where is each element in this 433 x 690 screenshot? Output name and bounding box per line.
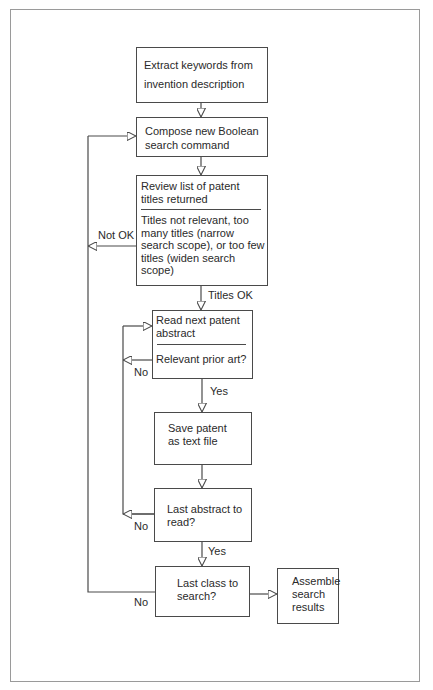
edge-label-yes-last-abstract: Yes [208, 545, 226, 558]
edge-label-yes-relevant: Yes [210, 385, 228, 398]
node-divider [157, 344, 246, 345]
node-text-top: Review list of patent titles returned [141, 180, 261, 205]
node-text: Last abstract to read? [167, 503, 243, 528]
node-text: Extract keywords from invention descript… [144, 56, 262, 94]
edge-label-no-last-abstract: No [134, 520, 148, 533]
node-compose-search: Compose new Boolean search command [136, 117, 268, 157]
node-last-class: Last class to search? [155, 566, 250, 617]
node-divider [141, 209, 261, 210]
node-text-bottom: Titles not relevant, too many titles (na… [141, 214, 265, 277]
inner-loop-line [123, 326, 154, 514]
edge-label-no-relevant: No [134, 366, 148, 379]
edge-label-no-last-class: No [134, 596, 148, 609]
node-save-patent: Save patent as text file [154, 412, 252, 465]
node-review-titles: Review list of patent titles returned Ti… [136, 175, 268, 286]
node-text: Compose new Boolean search command [145, 124, 263, 152]
node-last-abstract: Last abstract to read? [154, 488, 252, 542]
node-text: Last class to search? [177, 577, 239, 602]
node-text-top: Read next patent abstract [156, 314, 250, 339]
edge-label-titles-ok: Titles OK [208, 289, 253, 302]
node-text: Save patent as text file [168, 422, 238, 447]
node-read-abstract: Read next patent abstract Relevant prior… [152, 310, 253, 379]
node-text: Assemble search results [292, 575, 338, 614]
node-text-bottom: Relevant prior art? [156, 352, 252, 366]
node-extract-keywords: Extract keywords from invention descript… [136, 47, 268, 103]
edge-label-not-ok: Not OK [98, 229, 134, 242]
node-assemble-results: Assemble search results [277, 568, 339, 624]
